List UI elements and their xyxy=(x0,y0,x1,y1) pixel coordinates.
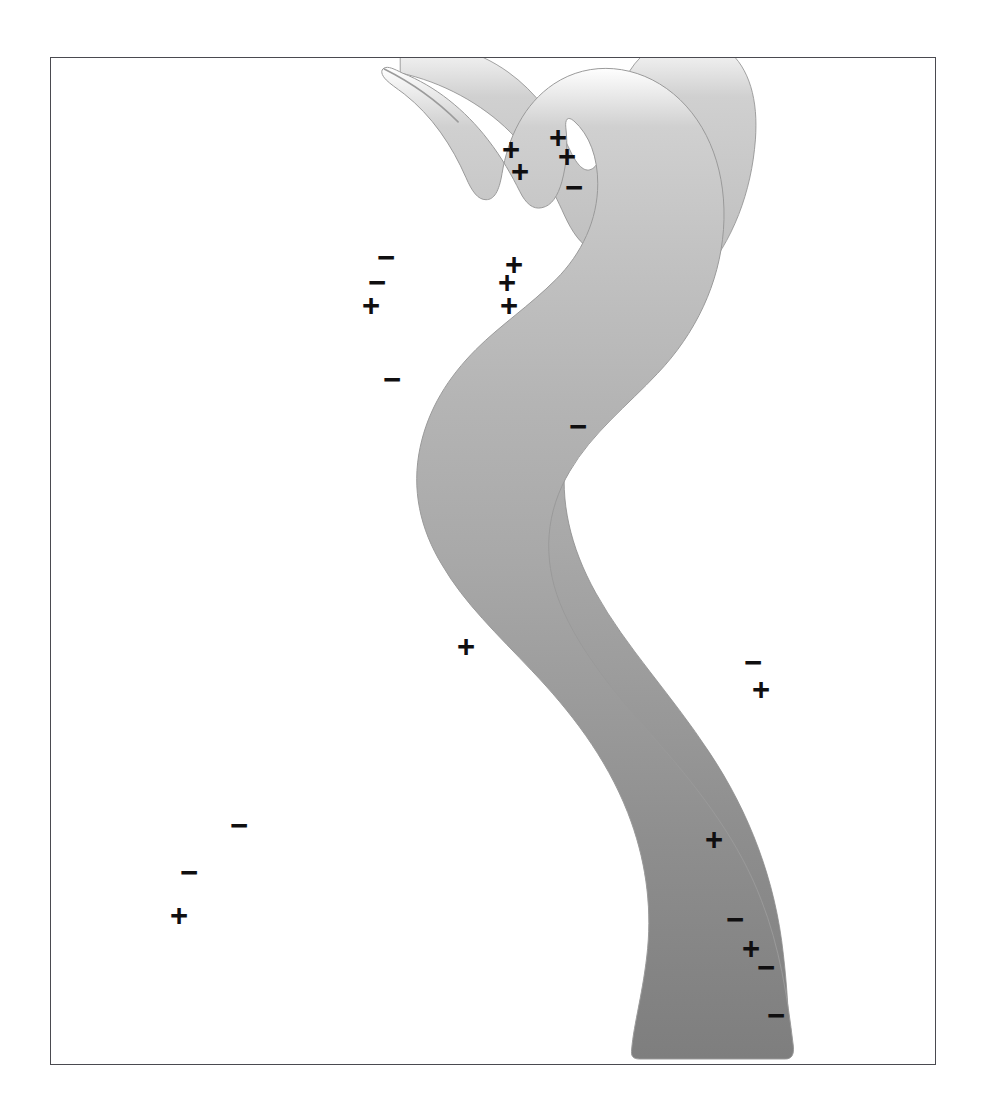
figure-root: ++++−−+−+++−−+−+−+−+−+−− xyxy=(0,0,987,1116)
band-diagram-svg xyxy=(51,58,935,1064)
figure-frame-border: ++++−−+−+++−−+−+−+−+−+−− xyxy=(50,57,936,1065)
